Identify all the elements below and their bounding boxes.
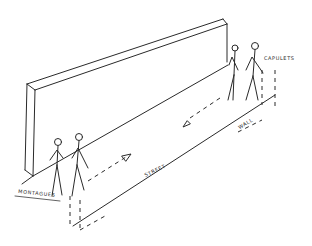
capulets-arrow [190, 98, 220, 118]
montague-figure-2 [72, 134, 88, 197]
capulet-figure-1 [228, 45, 238, 100]
montagues-arrow [88, 157, 126, 181]
montagues-figures [50, 134, 88, 197]
montague-figure-1 [50, 139, 63, 197]
capulet-figure-2 [246, 43, 263, 101]
capulets-figures [228, 43, 263, 101]
dimension-lines [70, 70, 275, 230]
stage-sketch [0, 0, 312, 246]
label-capulets: CAPULETS [264, 55, 295, 61]
street [15, 95, 275, 226]
